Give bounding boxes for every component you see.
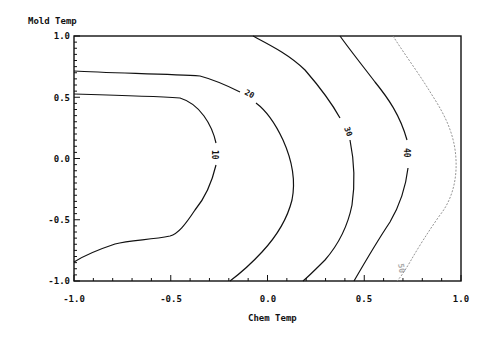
contour-40: [340, 36, 408, 281]
contour-50: [393, 36, 456, 281]
contour-label-10: 10: [210, 150, 219, 160]
x-tick-label: 0.0: [260, 294, 276, 304]
x-tick-label: 0.5: [356, 294, 372, 304]
contour-label-20: 20: [243, 88, 256, 101]
y-tick-label: -0.5: [48, 215, 70, 225]
x-axis-title: Chem Temp: [248, 313, 297, 323]
y-tick-label: 0.0: [54, 154, 70, 164]
contour-label-50: 50: [396, 263, 407, 274]
y-axis-title: Mold Temp: [28, 16, 77, 26]
contour-label-40: 40: [402, 148, 411, 158]
x-tick-label: -1.0: [63, 294, 85, 304]
contour-20: [74, 71, 294, 281]
x-tick-label: -0.5: [160, 294, 182, 304]
y-tick-label: 1.0: [54, 31, 70, 41]
contour-10: [74, 94, 216, 262]
y-tick-label: -1.0: [48, 276, 70, 286]
contour-lines: [74, 36, 456, 281]
y-tick-label: 0.5: [54, 93, 70, 103]
x-tick-label: 1.0: [453, 294, 469, 304]
contour-plot: Mold Temp Chem Temp 1.0 0.5 0.0 -0.5 -1.…: [0, 0, 495, 347]
contour-label-30: 30: [342, 126, 354, 138]
